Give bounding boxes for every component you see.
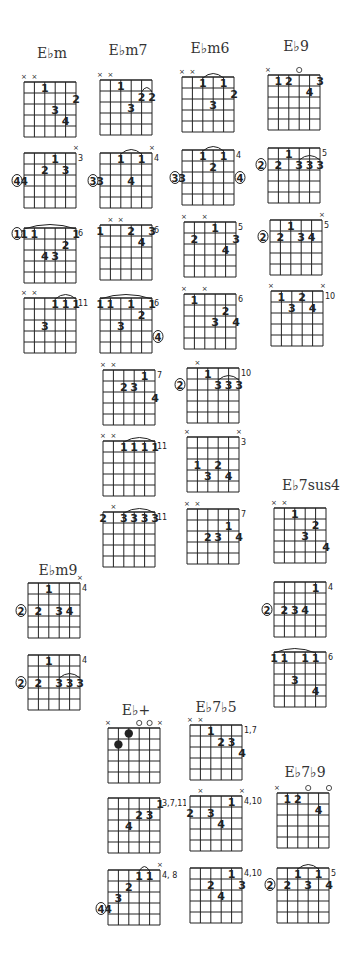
fretboard-grid: ××1234 bbox=[260, 498, 352, 569]
chord-diagram-eb9-20: ×123425 bbox=[256, 210, 348, 285]
fret-position-label: 7 bbox=[157, 371, 162, 380]
fret-position-label: 5 bbox=[324, 221, 329, 230]
finger-number: 3 bbox=[301, 530, 309, 543]
fretboard-grid: ×2333311 bbox=[89, 502, 181, 573]
fret-position-label: 4 bbox=[82, 584, 87, 593]
finger-number: 1 bbox=[45, 583, 53, 596]
fretboard-grid: 12344,10 bbox=[176, 858, 268, 929]
finger-number: 4 bbox=[315, 804, 323, 817]
finger-number: 4 bbox=[238, 747, 246, 760]
finger-number: 3 bbox=[304, 879, 312, 892]
muted-string-icon: × bbox=[194, 500, 200, 508]
finger-number: 3 bbox=[214, 531, 222, 544]
finger-number: 4 bbox=[62, 115, 70, 128]
finger-number: 4 bbox=[151, 392, 159, 405]
fretboard-grid: ××123410 bbox=[257, 281, 349, 352]
chord-diagram-eb7sus4-23: 123424 bbox=[260, 572, 352, 647]
finger-number: 2 bbox=[275, 159, 283, 172]
finger-number: 3 bbox=[214, 379, 222, 392]
finger-number: 1 bbox=[62, 298, 70, 311]
fretboard-grid: ××111111 bbox=[89, 431, 181, 502]
fret-position-label: 4, 8 bbox=[162, 871, 177, 880]
finger-number: 3 bbox=[62, 164, 70, 177]
muted-string-icon: × bbox=[239, 787, 245, 795]
muted-string-icon: × bbox=[197, 787, 203, 795]
finger-number: 3 bbox=[306, 159, 314, 172]
fretboard-grid: 1123344 bbox=[168, 140, 260, 211]
finger-number: 1 bbox=[141, 441, 149, 454]
finger-number: 3 bbox=[141, 512, 149, 525]
finger-number: 1 bbox=[294, 868, 302, 881]
fretboard-grid: ×123424 bbox=[14, 573, 106, 644]
finger-number: 2 bbox=[207, 879, 215, 892]
finger-number: 1 bbox=[204, 368, 212, 381]
muted-string-icon: × bbox=[97, 71, 103, 79]
chord-diagram-ebm7-9: ××111111 bbox=[89, 431, 181, 506]
fret-position-label: 1,7 bbox=[244, 726, 257, 735]
finger-number: 3 bbox=[291, 604, 299, 617]
finger-number: 2 bbox=[72, 93, 80, 106]
fretboard-grid: ××12341,7 bbox=[176, 715, 268, 786]
chord-diagram-ebm6-15: ×1333210 bbox=[173, 358, 265, 433]
finger-number: 3 bbox=[316, 75, 324, 88]
finger-number: 1 bbox=[96, 225, 104, 238]
optional-finger-number: 4 bbox=[237, 173, 244, 184]
fretboard-grid: ××12343 bbox=[173, 427, 265, 498]
fretboard-grid: ××1123 bbox=[168, 67, 260, 138]
optional-finger-number: 2 bbox=[260, 232, 267, 243]
finger-dot bbox=[114, 740, 122, 748]
finger-number: 4 bbox=[222, 244, 230, 257]
finger-number: 1 bbox=[138, 153, 146, 166]
finger-number: 4 bbox=[308, 231, 316, 244]
fret-position-label: 4 bbox=[154, 154, 159, 163]
fret-position-label: 6 bbox=[238, 295, 243, 304]
fretboard-grid: ×1123444, 8 bbox=[94, 860, 186, 931]
chord-diagram-ebm6-12: 1123344 bbox=[168, 140, 260, 215]
finger-number: 3 bbox=[232, 233, 240, 246]
finger-number: 1 bbox=[301, 652, 309, 665]
muted-string-icon: × bbox=[110, 432, 116, 440]
chord-title-ebm7: E♭m7 bbox=[108, 42, 147, 58]
finger-number: 2 bbox=[125, 881, 133, 894]
finger-number: 2 bbox=[214, 459, 222, 472]
muted-string-icon: × bbox=[319, 211, 325, 219]
finger-number: 3 bbox=[130, 512, 138, 525]
fretboard-grid: 1233324 bbox=[14, 645, 106, 716]
fret-position-label: 4,10 bbox=[244, 797, 262, 806]
chord-diagram-eb9-18: ×1234 bbox=[254, 65, 346, 140]
optional-finger-number: 2 bbox=[258, 160, 265, 171]
fret-position-label: 6 bbox=[154, 299, 159, 308]
finger-number: 3 bbox=[120, 512, 128, 525]
finger-number: 3 bbox=[291, 674, 299, 687]
finger-number: 4 bbox=[127, 175, 135, 188]
muted-string-icon: × bbox=[157, 861, 163, 869]
finger-number: 3 bbox=[55, 677, 63, 690]
finger-number: 1 bbox=[281, 652, 289, 665]
finger-number: 3 bbox=[288, 302, 296, 315]
finger-number: 3 bbox=[316, 159, 324, 172]
finger-number: 4 bbox=[125, 820, 133, 833]
optional-finger-number: 2 bbox=[264, 605, 271, 616]
muted-string-icon: × bbox=[31, 73, 37, 81]
finger-number: 1 bbox=[31, 228, 39, 241]
finger-number: 3 bbox=[225, 379, 233, 392]
chord-title-eb7b5: E♭7♭5 bbox=[195, 699, 236, 715]
finger-number: 2 bbox=[277, 231, 285, 244]
finger-number: 1 bbox=[278, 291, 286, 304]
finger-number: 3 bbox=[235, 379, 243, 392]
muted-string-icon: × bbox=[320, 282, 326, 290]
muted-string-icon: × bbox=[181, 213, 187, 221]
muted-string-icon: × bbox=[110, 361, 116, 369]
fretboard-grid: 1111346 bbox=[260, 642, 352, 713]
finger-number: 2 bbox=[148, 91, 156, 104]
muted-string-icon: × bbox=[281, 499, 287, 507]
finger-number: 3 bbox=[130, 381, 138, 394]
muted-string-icon: × bbox=[184, 500, 190, 508]
finger-number: 3 bbox=[41, 320, 49, 333]
muted-string-icon: × bbox=[157, 719, 163, 727]
finger-number: 4 bbox=[322, 541, 330, 554]
finger-number: 3 bbox=[115, 892, 123, 905]
finger-number: 4 bbox=[306, 86, 314, 99]
chord-diagram-ebm7-10: ×2333311 bbox=[89, 502, 181, 577]
finger-number: 2 bbox=[281, 604, 289, 617]
